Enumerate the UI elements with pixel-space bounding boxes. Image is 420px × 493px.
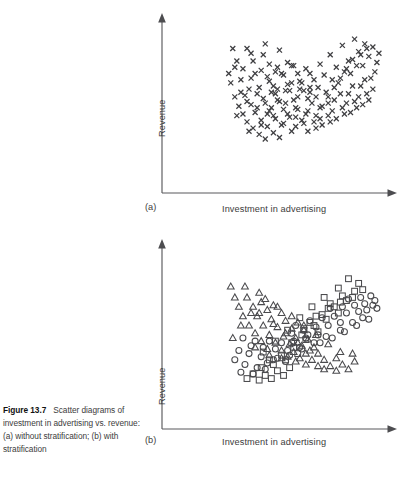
panel-b-x-axis-arrowhead	[388, 425, 398, 433]
marker-triangle	[315, 350, 322, 356]
marker-square	[335, 310, 341, 316]
marker-triangle	[250, 303, 257, 309]
panel-a-plot	[140, 6, 420, 221]
marker-square	[309, 304, 315, 310]
marker-triangle	[229, 335, 236, 341]
marker-circle	[238, 369, 244, 375]
marker-triangle	[339, 361, 346, 367]
marker-circle	[337, 319, 343, 325]
marker-triangle	[315, 363, 322, 369]
marker-square	[356, 281, 362, 287]
panel-a-data-markers	[226, 37, 381, 142]
marker-circle	[323, 333, 329, 339]
marker-circle	[374, 305, 380, 311]
marker-triangle	[246, 322, 253, 328]
marker-circle	[352, 302, 358, 308]
marker-square	[360, 287, 366, 293]
marker-triangle	[288, 313, 295, 319]
marker-circle	[358, 294, 364, 300]
marker-triangle	[260, 322, 267, 328]
panel-b-data-markers	[227, 276, 380, 383]
panel-a-tag: (a)	[145, 202, 156, 212]
panel-b-y-axis-arrowhead	[158, 239, 166, 249]
panel-a-y-axis-label: Revenue	[157, 100, 167, 137]
marker-circle	[356, 308, 362, 314]
marker-triangle	[240, 313, 247, 319]
marker-triangle	[252, 330, 259, 336]
marker-circle	[343, 310, 349, 316]
marker-triangle	[238, 322, 245, 328]
marker-circle	[279, 340, 285, 346]
marker-triangle	[231, 294, 238, 300]
marker-triangle	[258, 338, 265, 344]
marker-triangle	[242, 283, 249, 289]
marker-square	[313, 313, 319, 319]
marker-triangle	[248, 310, 255, 316]
marker-circle	[360, 315, 366, 321]
marker-triangle	[309, 356, 316, 362]
marker-circle	[250, 371, 256, 377]
marker-circle	[262, 366, 268, 372]
panel-a-x-axis-arrowhead	[388, 189, 398, 197]
marker-circle	[254, 365, 260, 371]
marker-triangle	[235, 303, 242, 309]
marker-circle	[272, 346, 278, 352]
marker-triangle	[262, 296, 269, 302]
marker-square	[268, 376, 274, 382]
marker-triangle	[349, 350, 356, 356]
marker-triangle	[333, 355, 340, 361]
panel-b-tag: (b)	[145, 435, 156, 445]
marker-triangle	[227, 283, 234, 289]
scatter-panel-a: Revenue Investment in advertising (a)	[140, 6, 420, 221]
marker-circle	[350, 319, 356, 325]
marker-square	[335, 285, 341, 291]
marker-triangle	[327, 363, 334, 369]
marker-square	[346, 276, 352, 282]
marker-circle	[354, 323, 360, 329]
marker-triangle	[252, 344, 259, 350]
marker-circle	[345, 296, 351, 302]
marker-square	[275, 368, 281, 374]
marker-triangle	[278, 310, 285, 316]
figure-caption: Figure 13.7Scatter diagrams of investmen…	[3, 404, 143, 456]
marker-square	[262, 373, 268, 379]
marker-circle	[317, 340, 323, 346]
marker-triangle	[351, 358, 358, 364]
marker-triangle	[264, 345, 271, 351]
marker-circle	[325, 323, 331, 329]
marker-triangle	[266, 331, 273, 337]
marker-circle	[242, 362, 248, 368]
marker-triangle	[256, 289, 263, 295]
figure-13-7: Figure 13.7Scatter diagrams of investmen…	[0, 0, 420, 493]
marker-circle	[236, 347, 242, 353]
panel-b-y-axis-label: Revenue	[157, 368, 167, 405]
marker-square	[281, 373, 287, 379]
marker-square	[352, 288, 358, 294]
marker-square	[244, 376, 250, 382]
marker-circle	[266, 338, 272, 344]
marker-circle	[329, 335, 335, 341]
marker-triangle	[337, 349, 344, 355]
figure-number: Figure 13.7	[3, 405, 46, 415]
marker-triangle	[244, 294, 251, 300]
scatter-panel-b: Revenue Investment in advertising (b)	[140, 238, 420, 456]
panel-b-plot	[140, 238, 420, 456]
marker-square	[287, 365, 293, 371]
marker-circle	[232, 357, 238, 363]
panel-a-y-axis-arrowhead	[158, 13, 166, 23]
marker-square	[256, 377, 262, 383]
marker-circle	[362, 301, 368, 307]
panel-a-x-axis-label: Investment in advertising	[222, 204, 326, 214]
marker-circle	[246, 351, 252, 357]
marker-triangle	[325, 341, 332, 347]
marker-circle	[240, 335, 246, 341]
marker-circle	[366, 316, 372, 322]
marker-circle	[364, 307, 370, 313]
marker-triangle	[321, 356, 328, 362]
marker-square	[321, 295, 327, 301]
panel-b-x-axis-label: Investment in advertising	[222, 437, 326, 447]
